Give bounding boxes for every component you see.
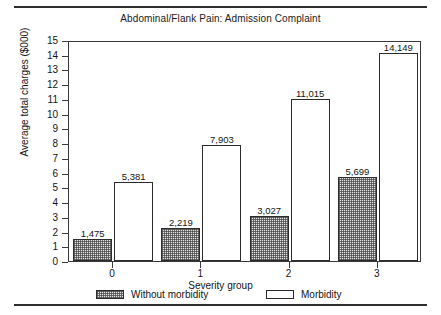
y-axis-tick-mark xyxy=(62,85,68,86)
y-axis-tick-mark xyxy=(62,188,68,189)
top-divider-rule xyxy=(14,6,427,8)
y-axis-tick-mark xyxy=(62,70,68,71)
bar-value-label: 3,027 xyxy=(242,205,297,216)
bars-layer: 1,4755,3812,2197,9033,02711,0155,69914,1… xyxy=(69,42,420,261)
chart-title: Abdominal/Flank Pain: Admission Complain… xyxy=(0,13,441,24)
y-axis-tick-label: 6 xyxy=(36,169,58,179)
legend-item: Without morbidity xyxy=(96,289,208,300)
bar-value-label: 5,699 xyxy=(330,166,385,177)
x-axis-tick-label: 0 xyxy=(97,268,127,279)
y-axis-tick-label: 14 xyxy=(36,51,58,61)
y-axis-tick-label: 11 xyxy=(36,95,58,105)
legend-item-label: Morbidity xyxy=(301,289,342,300)
y-axis-tick-mark xyxy=(62,144,68,145)
y-axis-tick-mark xyxy=(62,129,68,130)
bar xyxy=(338,177,377,261)
y-axis-tick-mark xyxy=(62,159,68,160)
figure-container: Abdominal/Flank Pain: Admission Complain… xyxy=(0,0,441,315)
y-axis-tick-label: 1 xyxy=(36,242,58,252)
bar-value-label: 5,381 xyxy=(106,171,161,182)
y-axis-tick-label: 4 xyxy=(36,198,58,208)
bar-value-label: 7,903 xyxy=(194,134,249,145)
bar-value-label: 2,219 xyxy=(153,217,208,228)
y-axis-tick-mark xyxy=(62,262,68,263)
bar xyxy=(379,53,418,261)
y-axis-tick-label: 10 xyxy=(36,110,58,120)
x-axis-tick-label: 2 xyxy=(274,268,304,279)
y-axis-tick-labels: 0123456789101112131415 xyxy=(36,41,58,262)
y-axis-tick-label: 2 xyxy=(36,228,58,238)
y-axis-tick-mark xyxy=(62,233,68,234)
bar xyxy=(250,216,289,261)
bar-value-label: 1,475 xyxy=(65,228,120,239)
bar xyxy=(291,99,330,261)
y-axis-tick-label: 5 xyxy=(36,183,58,193)
bar xyxy=(114,182,153,261)
y-axis-tick-label: 8 xyxy=(36,139,58,149)
y-axis-tick-label: 13 xyxy=(36,65,58,75)
y-axis-tick-label: 9 xyxy=(36,124,58,134)
y-axis-tick-label: 12 xyxy=(36,80,58,90)
y-axis-tick-mark xyxy=(62,100,68,101)
y-axis-tick-label: 3 xyxy=(36,213,58,223)
chart-legend: Without morbidityMorbidity xyxy=(68,289,421,303)
y-axis-tick-mark xyxy=(62,174,68,175)
y-axis-tick-mark xyxy=(62,218,68,219)
hatched-swatch xyxy=(96,290,124,299)
legend-item-label: Without morbidity xyxy=(131,289,208,300)
bar xyxy=(202,145,241,261)
y-axis-label: Average total charges ($000) xyxy=(19,0,31,187)
plot-area: 1,4755,3812,2197,9033,02711,0155,69914,1… xyxy=(68,41,421,262)
y-axis-tick-mark xyxy=(62,56,68,57)
y-axis-tick-mark xyxy=(62,115,68,116)
y-axis-tick-mark xyxy=(62,41,68,42)
bottom-divider-rule xyxy=(14,304,427,306)
x-axis-tick-label: 1 xyxy=(185,268,215,279)
bar xyxy=(161,228,200,261)
y-axis-tick-label: 15 xyxy=(36,36,58,46)
y-axis-tick-mark xyxy=(62,203,68,204)
y-axis-tick-label: 0 xyxy=(36,257,58,267)
x-axis-tick-label: 3 xyxy=(362,268,392,279)
y-axis-tick-label: 7 xyxy=(36,154,58,164)
y-axis-tick-mark xyxy=(62,247,68,248)
bar xyxy=(73,239,112,261)
bar-value-label: 11,015 xyxy=(283,88,338,99)
white-swatch xyxy=(266,290,294,299)
legend-item: Morbidity xyxy=(266,289,342,300)
bar-value-label: 14,149 xyxy=(371,42,426,53)
